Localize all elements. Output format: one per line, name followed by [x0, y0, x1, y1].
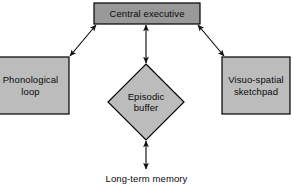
node-label-central-executive: Central executive [94, 3, 200, 24]
node-label-long-term-memory: Long-term memory [93, 172, 200, 186]
node-label-episodic-buffer: Episodic buffer [108, 64, 184, 140]
working-memory-diagram: Central executive Phonological loop Epis… [0, 0, 294, 193]
node-label-visuo-spatial-sketchpad: Visuo-spatial sketchpad [222, 57, 290, 114]
node-label-layer: Central executive Phonological loop Epis… [0, 0, 294, 193]
node-label-phonological-loop: Phonological loop [0, 57, 69, 114]
